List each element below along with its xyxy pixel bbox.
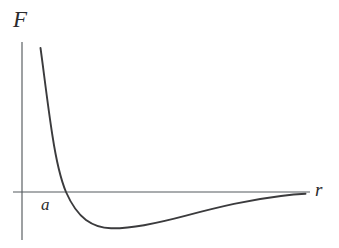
plot-canvas — [0, 0, 339, 248]
zero-crossing-label: a — [41, 196, 50, 213]
force-curve — [41, 48, 306, 228]
x-axis-label: r — [315, 180, 322, 199]
y-axis-label: F — [13, 8, 27, 31]
force-curve-figure: F r a — [0, 0, 339, 248]
